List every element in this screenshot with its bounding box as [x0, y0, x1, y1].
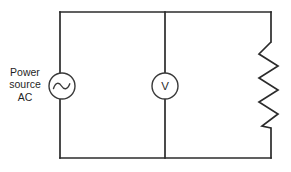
resistor-symbol: [259, 42, 278, 128]
power-source-label-line-3: AC: [2, 91, 48, 103]
voltmeter-letter: V: [161, 80, 169, 92]
power-source-label-line-2: source: [2, 78, 48, 90]
voltmeter-symbol: V: [152, 73, 178, 99]
power-source-label: Power source AC: [2, 66, 48, 103]
power-source-label-line-1: Power: [2, 66, 48, 78]
circuit-diagram: V Power source AC: [0, 0, 291, 172]
ac-source-symbol: [49, 73, 75, 99]
resistor-zigzag-icon: [259, 42, 278, 128]
